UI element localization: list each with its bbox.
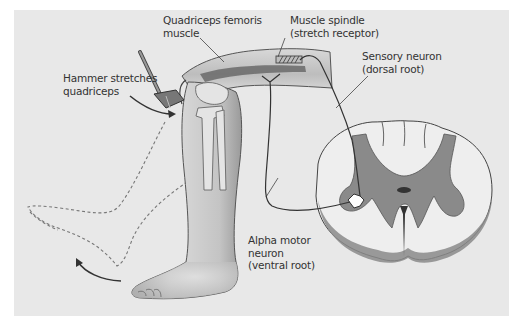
label-hammer: Hammer stretches quadriceps <box>63 72 157 97</box>
arrow-head-icon <box>168 110 176 118</box>
label-sensory-neuron: Sensory neuron (dorsal root) <box>362 50 442 75</box>
label-quadriceps: Quadriceps femoris muscle <box>163 14 262 39</box>
motion-arrows <box>78 96 172 281</box>
muscle-spindle <box>276 56 302 63</box>
label-alpha-motor-neuron: Alpha motor neuron (ventral root) <box>248 234 315 272</box>
spinal-cord <box>316 121 492 263</box>
central-canal <box>397 187 411 193</box>
label-muscle-spindle: Muscle spindle (stretch receptor) <box>290 14 379 39</box>
reflex-illustration <box>0 0 531 329</box>
